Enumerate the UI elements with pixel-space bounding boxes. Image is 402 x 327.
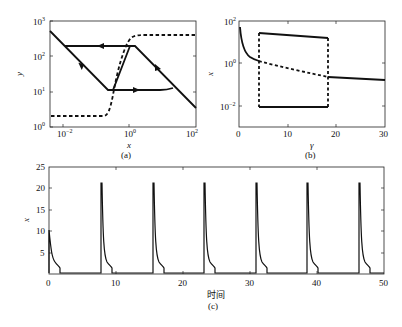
plot-a-ytick-0: 100 — [33, 121, 45, 132]
plot-b-xtick-3: 30 — [379, 129, 389, 139]
plot-a-solid-curve — [50, 31, 196, 108]
plot-c-caption: (c) — [208, 301, 218, 311]
plot-c-ylabel: x — [21, 218, 31, 223]
plot-c-xtick-3: 30 — [245, 278, 255, 288]
plot-b-ytick-2: 102 — [224, 16, 236, 27]
plot-b-stable-branch — [240, 27, 259, 61]
plot-a-ytick-2: 102 — [33, 51, 45, 62]
plot-c-spike-train — [49, 183, 384, 273]
plot-c-xtick-4: 40 — [312, 278, 322, 288]
plot-a-ylabel: y — [14, 72, 24, 77]
plot-b-ylabel: x — [205, 72, 215, 77]
plot-b-xtick-2: 20 — [331, 129, 341, 139]
plot-b-xlabel: γ — [310, 140, 314, 150]
plot-b-xtick-0: 0 — [236, 129, 241, 139]
plot-b-ytick-1: 100 — [224, 58, 236, 69]
plot-b-stable-branch-right — [328, 77, 385, 80]
arrow-up-icon — [155, 64, 161, 71]
plot-c-xlabel: 时间 — [207, 289, 225, 300]
plot-c-frame — [49, 167, 384, 274]
plot-a-xlabel: x — [126, 140, 131, 150]
plot-c-ytick-20: 20 — [36, 183, 46, 193]
plot-c-ytick-10: 10 — [36, 226, 46, 236]
plot-c-xtick-1: 10 — [111, 278, 121, 288]
plot-a: 10−2 100 102 100 101 102 103 x y (a) — [14, 16, 198, 160]
plot-c-xtick-5: 50 — [379, 278, 389, 288]
plot-a-caption: (a) — [121, 150, 131, 160]
plot-a-xtick-0: 10−2 — [57, 128, 72, 139]
plot-b-caption: (b) — [305, 150, 316, 160]
arrow-right-icon — [133, 87, 140, 93]
plot-b-xtick-1: 10 — [283, 129, 293, 139]
plot-c-ytick-15: 15 — [36, 205, 46, 215]
plot-c-xtick-2: 20 — [178, 278, 188, 288]
plot-a-xtick-1: 100 — [124, 128, 136, 139]
plot-c: 0 10 20 30 40 50 5 10 15 20 25 时间 x (c) — [21, 162, 389, 311]
plot-b-cycle-max — [259, 33, 328, 38]
figure: 10−2 100 102 100 101 102 103 x y (a) 0 1… — [0, 0, 402, 327]
plot-c-xtick-0: 0 — [46, 278, 51, 288]
plot-a-xtick-2: 102 — [186, 128, 198, 139]
plot-a-ytick-1: 101 — [33, 86, 45, 97]
plot-c-ytick-5: 5 — [40, 248, 45, 258]
arrow-left-icon — [97, 43, 104, 49]
plot-a-ytick-3: 103 — [33, 16, 45, 27]
plot-c-ytick-25: 25 — [36, 162, 46, 172]
plot-b-unstable-branch — [259, 61, 328, 77]
plot-a-dashed-nullcline — [51, 35, 195, 116]
plot-a-frame — [50, 21, 196, 127]
plot-b: 0 10 20 30 10−2 100 102 γ x (b) — [205, 16, 389, 160]
plot-b-ytick-0: 10−2 — [220, 101, 235, 112]
